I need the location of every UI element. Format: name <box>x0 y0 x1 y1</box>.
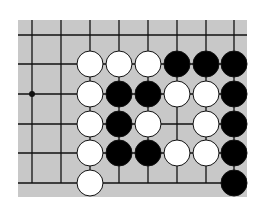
black-stone <box>221 170 247 196</box>
black-stone <box>135 140 161 166</box>
white-stone <box>164 81 190 107</box>
black-stone <box>135 81 161 107</box>
board-background <box>18 20 247 197</box>
star-point <box>29 91 35 97</box>
white-stone <box>135 111 161 137</box>
white-stone <box>135 51 161 77</box>
white-stone <box>106 51 132 77</box>
go-board <box>0 0 253 202</box>
white-stone <box>77 111 103 137</box>
white-stone <box>193 111 219 137</box>
black-stone <box>221 81 247 107</box>
black-stone <box>221 111 247 137</box>
black-stone <box>106 111 132 137</box>
white-stone <box>77 140 103 166</box>
black-stone <box>221 51 247 77</box>
black-stone <box>164 51 190 77</box>
black-stone <box>106 81 132 107</box>
white-stone <box>77 51 103 77</box>
star-points <box>29 91 35 97</box>
white-stone <box>193 140 219 166</box>
black-stone <box>106 140 132 166</box>
white-stone <box>77 81 103 107</box>
white-stone <box>193 81 219 107</box>
white-stone <box>77 170 103 196</box>
black-stone <box>193 51 219 77</box>
black-stone <box>221 140 247 166</box>
white-stone <box>164 140 190 166</box>
